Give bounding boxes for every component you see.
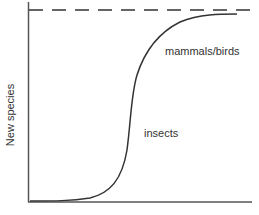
annotation-insects: insects	[144, 127, 179, 139]
species-curve	[30, 14, 237, 201]
species-chart: New species mammals/birds insects	[0, 0, 259, 215]
y-axis-label: New species	[4, 83, 16, 146]
annotation-mammals-birds: mammals/birds	[165, 45, 240, 57]
